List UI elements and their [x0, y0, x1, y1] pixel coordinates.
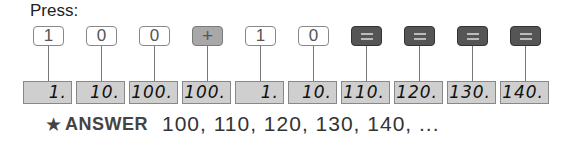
- step-column: +100.: [182, 26, 234, 106]
- calculator-display: 1.: [23, 81, 72, 104]
- calculator-display: 110.: [341, 81, 390, 104]
- step-column: 0100.: [129, 26, 181, 106]
- step-column: 120.: [394, 26, 446, 106]
- connector-line: [419, 46, 420, 81]
- connector-line: [366, 46, 367, 81]
- digit-key: 0: [86, 26, 117, 46]
- equals-icon: [414, 33, 426, 40]
- answer-value: 100, 110, 120, 130, 140, ...: [162, 112, 439, 136]
- step-column: 010.: [288, 26, 340, 106]
- step-column: 11.: [23, 26, 75, 106]
- equals-key: [457, 26, 488, 46]
- step-column: 140.: [500, 26, 552, 106]
- step-column: 11.: [235, 26, 287, 106]
- calculator-display: 100.: [129, 81, 178, 104]
- equals-key: [510, 26, 541, 46]
- equals-key: [351, 26, 382, 46]
- equals-icon: [467, 33, 479, 40]
- step-column: 010.: [76, 26, 128, 106]
- step-column: 130.: [447, 26, 499, 106]
- digit-key: 1: [33, 26, 64, 46]
- digit-key: 0: [139, 26, 170, 46]
- calculator-display: 140.: [500, 81, 549, 104]
- connector-line: [313, 46, 314, 81]
- plus-key: +: [192, 26, 223, 46]
- connector-line: [525, 46, 526, 81]
- calculator-display: 100.: [182, 81, 231, 104]
- calculator-display: 10.: [288, 81, 337, 104]
- star-icon: ★: [45, 113, 62, 136]
- calculator-display: 1.: [235, 81, 284, 104]
- connector-line: [101, 46, 102, 81]
- answer-line: ★ ANSWER 100, 110, 120, 130, 140, ...: [45, 112, 439, 136]
- step-column: 110.: [341, 26, 393, 106]
- calculator-display: 120.: [394, 81, 443, 104]
- digit-key: 1: [245, 26, 276, 46]
- equals-icon: [520, 33, 532, 40]
- connector-line: [260, 46, 261, 81]
- equals-key: [404, 26, 435, 46]
- calculator-display: 130.: [447, 81, 496, 104]
- connector-line: [207, 46, 208, 81]
- connector-line: [154, 46, 155, 81]
- digit-key: 0: [298, 26, 329, 46]
- press-label: Press:: [30, 1, 78, 21]
- connector-line: [472, 46, 473, 81]
- calculator-display: 10.: [76, 81, 125, 104]
- answer-label: ANSWER: [65, 114, 148, 135]
- equals-icon: [361, 33, 373, 40]
- connector-line: [48, 46, 49, 81]
